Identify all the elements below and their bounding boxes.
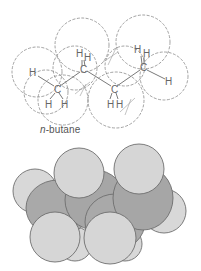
- n-butane-figure: H C H H H H C C H H H H C H n-butane: [0, 0, 201, 271]
- space-filling-model: [0, 0, 201, 271]
